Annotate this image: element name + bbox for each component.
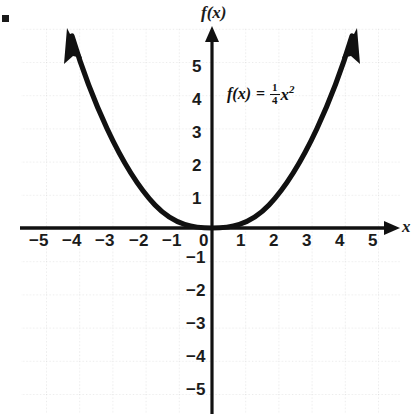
x-tick-label-4: 4 [335, 232, 344, 249]
x-tick-label-3: 3 [302, 232, 311, 249]
equation-annotation: f(x) = 1 4 x 2 [227, 82, 295, 106]
equation-equals-sign: = [256, 86, 265, 102]
equation-variable: x [281, 86, 290, 103]
x-tick-label-2: 2 [269, 232, 278, 249]
y-tick-label-neg5: −5 [186, 381, 205, 398]
graph-figure: f(x) x −5 −4 −3 −2 −1 0 1 2 3 4 5 5 4 3 … [0, 0, 411, 414]
y-tick-label-neg2: −2 [186, 282, 205, 299]
y-tick-label-neg1: −1 [186, 249, 205, 266]
x-axis-label: x [402, 218, 411, 235]
x-tick-label-neg4: −4 [62, 232, 81, 249]
fraction-denominator: 4 [270, 94, 280, 107]
x-tick-label-0: 0 [199, 232, 208, 249]
y-tick-label-4: 4 [192, 91, 201, 108]
equation-fraction: 1 4 [270, 82, 280, 106]
y-tick-label-5: 5 [192, 58, 201, 75]
y-tick-label-2: 2 [192, 157, 201, 174]
fraction-numerator: 1 [270, 82, 280, 94]
x-tick-label-neg1: −1 [162, 232, 181, 249]
x-tick-label-neg5: −5 [29, 232, 48, 249]
equation-function-name: f(x) [227, 86, 251, 102]
equation-exponent: 2 [289, 84, 295, 95]
x-tick-label-neg2: −2 [129, 232, 148, 249]
coordinate-plane [0, 0, 411, 414]
y-tick-label-neg4: −4 [186, 348, 205, 365]
y-tick-label-1: 1 [192, 190, 201, 207]
y-axis-label: f(x) [201, 4, 226, 21]
y-tick-label-3: 3 [192, 124, 201, 141]
x-tick-label-1: 1 [236, 232, 245, 249]
y-tick-label-neg3: −3 [186, 315, 205, 332]
x-tick-label-5: 5 [368, 232, 377, 249]
x-tick-label-neg3: −3 [95, 232, 114, 249]
